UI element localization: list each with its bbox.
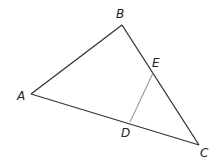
label-a: A [16,89,25,103]
side-bc [122,25,199,145]
label-d: D [121,126,130,140]
diagram-svg: A B C D E [0,0,216,162]
triangle-diagram: A B C D E [0,0,216,162]
label-e: E [152,56,160,70]
segment-de [130,73,153,122]
side-ab [31,25,122,94]
label-b: B [116,7,124,21]
label-c: C [200,146,209,160]
side-ca [31,94,199,145]
